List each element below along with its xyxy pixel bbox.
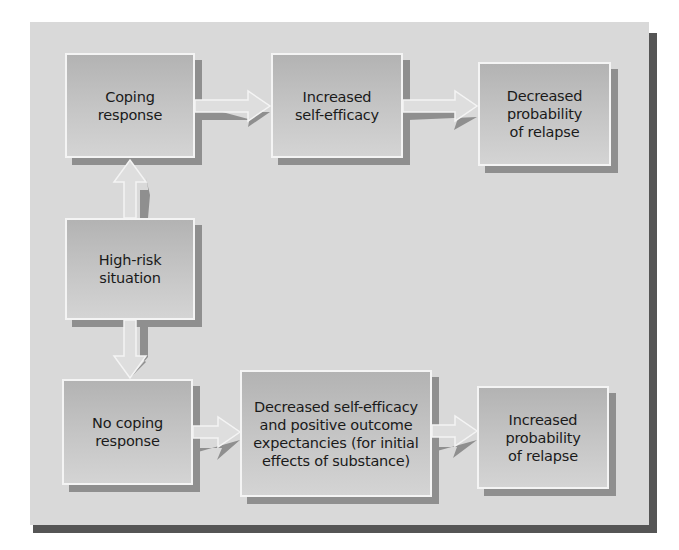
arrow-right-icon [193,417,240,460]
arrow-right-icon [195,91,270,127]
node-no-coping-response: No coping response [62,379,193,485]
node-label: High-risk situation [99,251,162,287]
arrow-down-icon [114,320,148,378]
node-label: No coping response [92,414,163,450]
node-label: Increased probability of relapse [505,411,580,465]
node-label: Increased self-efficacy [295,88,379,124]
node-label: Coping response [98,88,162,124]
node-label: Decreased self-efficacy and positive out… [253,398,418,470]
node-decreased-self-efficacy: Decreased self-efficacy and positive out… [240,370,432,497]
arrow-up-icon [114,160,150,218]
node-label: Decreased probability of relapse [507,87,582,141]
node-decreased-probability-of-relapse: Decreased probability of relapse [478,62,611,166]
node-high-risk-situation: High-risk situation [65,218,195,320]
node-increased-self-efficacy: Increased self-efficacy [271,53,403,158]
arrow-right-icon [432,416,477,458]
node-coping-response: Coping response [65,53,195,158]
node-increased-probability-of-relapse: Increased probability of relapse [477,386,609,489]
arrow-right-icon [403,91,477,130]
